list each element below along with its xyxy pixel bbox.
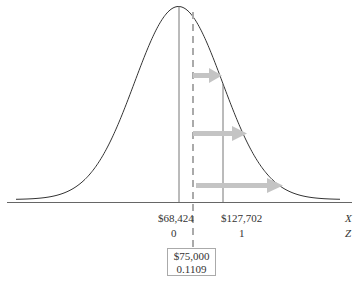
z-axis-label: Z — [345, 227, 351, 239]
mean-z-label: 0 — [171, 227, 177, 239]
x-axis-label: X — [345, 212, 352, 224]
normal-curve — [16, 7, 340, 200]
arrow-2 — [193, 126, 247, 141]
reference-x-value: $75,000 — [168, 250, 215, 263]
reference-z-value: 0.1109 — [168, 263, 215, 276]
sigma-z-label: 1 — [239, 227, 245, 239]
sigma-x-label: $127,702 — [221, 212, 262, 224]
mean-x-label: $68,424 — [158, 212, 194, 224]
arrow-3 — [196, 178, 283, 193]
normal-distribution-chart — [0, 0, 358, 283]
reference-value-box: $75,000 0.1109 — [167, 248, 216, 276]
